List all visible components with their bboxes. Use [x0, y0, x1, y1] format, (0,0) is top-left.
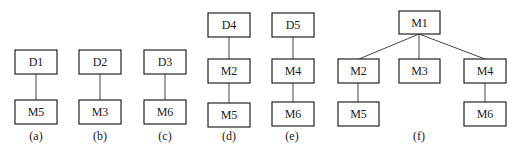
svg-text:M5: M5: [350, 107, 367, 121]
panel-f: M1 M2 M3 M4 M5 M6 (f): [338, 11, 506, 143]
caption-e: (e): [285, 129, 298, 143]
svg-text:M6: M6: [157, 105, 174, 119]
node-m2: M2: [208, 59, 250, 83]
node-m6: M6: [272, 102, 314, 126]
node-d4: D4: [208, 13, 250, 37]
panel-e: D5 M4 M6 (e): [272, 13, 314, 143]
node-m5: M5: [208, 103, 250, 127]
edge-f-m1-m2: [359, 34, 419, 59]
node-d1: D1: [15, 50, 57, 74]
svg-text:D3: D3: [158, 55, 173, 69]
svg-text:D1: D1: [29, 55, 44, 69]
caption-f: (f): [413, 129, 425, 143]
node-m6: M6: [464, 102, 506, 126]
svg-text:D4: D4: [222, 18, 237, 32]
svg-text:M6: M6: [285, 107, 302, 121]
svg-text:M2: M2: [350, 64, 367, 78]
caption-d: (d): [222, 129, 236, 143]
svg-text:M5: M5: [28, 105, 45, 119]
svg-text:M3: M3: [92, 105, 109, 119]
svg-text:D5: D5: [286, 18, 301, 32]
node-m1: M1: [399, 11, 440, 34]
caption-a: (a): [29, 129, 42, 143]
tree-diagram: D1 M5 (a) D2 M3 (b) D3 M6 (c): [0, 0, 518, 151]
caption-b: (b): [93, 129, 107, 143]
svg-text:M2: M2: [221, 64, 238, 78]
node-m4: M4: [464, 59, 506, 83]
node-m2: M2: [338, 59, 379, 83]
node-m3: M3: [399, 59, 440, 83]
node-d2: D2: [79, 50, 121, 74]
edge-f-m1-m4: [419, 34, 485, 59]
node-d5: D5: [272, 13, 314, 37]
node-m4: M4: [272, 59, 314, 83]
panel-d: D4 M2 M5 (d): [208, 13, 250, 143]
svg-text:M5: M5: [221, 108, 238, 122]
node-d3: D3: [144, 50, 186, 74]
svg-text:D2: D2: [93, 55, 108, 69]
node-m5: M5: [338, 102, 379, 126]
svg-text:M3: M3: [411, 64, 428, 78]
node-m3: M3: [79, 100, 121, 124]
caption-c: (c): [158, 129, 171, 143]
node-m6: M6: [144, 100, 186, 124]
svg-text:M4: M4: [477, 64, 494, 78]
node-m5: M5: [15, 100, 57, 124]
svg-text:M6: M6: [477, 107, 494, 121]
svg-text:M1: M1: [411, 16, 428, 30]
svg-text:M4: M4: [285, 64, 302, 78]
